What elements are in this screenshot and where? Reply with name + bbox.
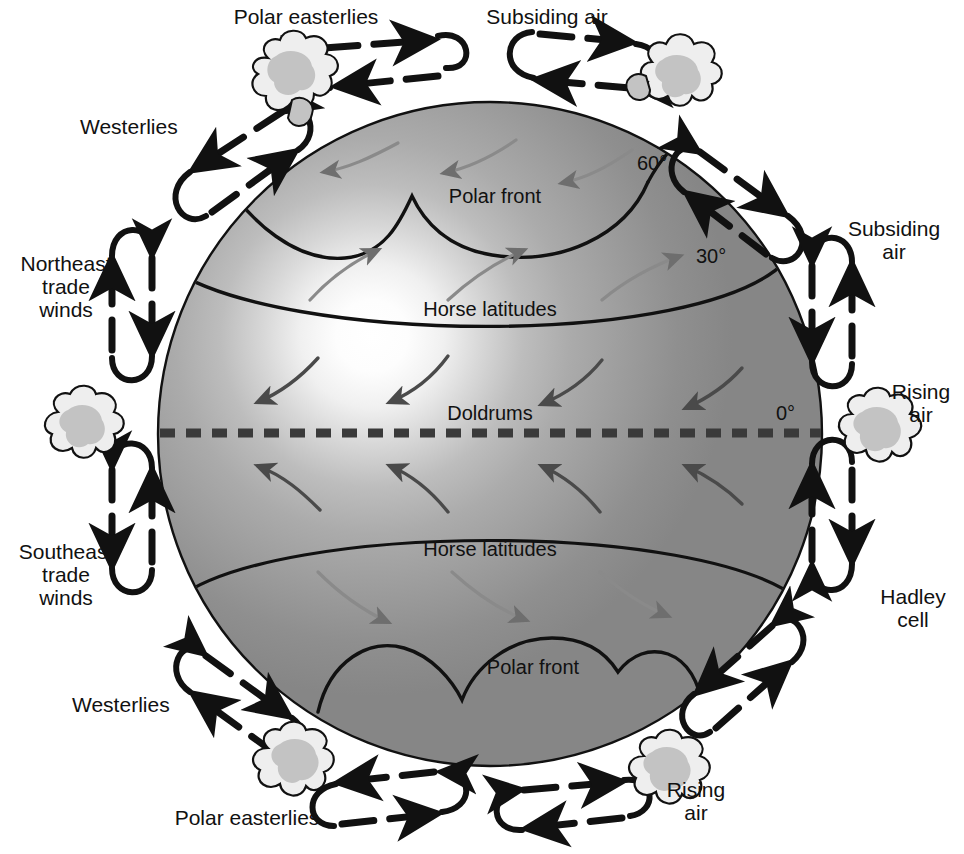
cloud-south-polar-front-west: [253, 722, 334, 796]
circulation-diagram: 60° 30° 0° Polar front Horse latitudes D…: [0, 0, 964, 854]
cell-polar-south-right: [497, 780, 650, 830]
polar-easterlies-north-label: Polar easterlies: [216, 5, 396, 28]
polar-front-south-label: Polar front: [463, 656, 603, 679]
polar-easterlies-south-label: Polar easterlies: [152, 806, 342, 829]
doldrums-label: Doldrums: [410, 402, 570, 425]
westerlies-north-label: Westerlies: [80, 115, 230, 138]
horse-latitudes-south-label: Horse latitudes: [390, 538, 590, 561]
lat-30-north-label: 30°: [696, 245, 726, 268]
rising-air-bottom-label: Rising air: [652, 778, 740, 824]
lat-60-north-label: 60°: [637, 152, 667, 175]
cloud-equator-west: [45, 386, 124, 458]
subsiding-air-top-label: Subsiding air: [452, 5, 642, 28]
subsiding-air-right-label: Subsiding air: [828, 217, 960, 263]
polar-front-north-label: Polar front: [425, 185, 565, 208]
lat-0-equator-label: 0°: [776, 402, 795, 425]
southeast-trade-winds-label: Southeast trade winds: [2, 540, 130, 609]
rising-air-right-label: Rising air: [878, 380, 964, 426]
cloud-north-polar-front: [252, 31, 337, 126]
westerlies-south-label: Westerlies: [72, 693, 222, 716]
horse-latitudes-north-label: Horse latitudes: [390, 298, 590, 321]
hadley-cell-label: Hadley cell: [866, 585, 960, 631]
northeast-trade-winds-label: Northeast trade winds: [6, 252, 126, 321]
